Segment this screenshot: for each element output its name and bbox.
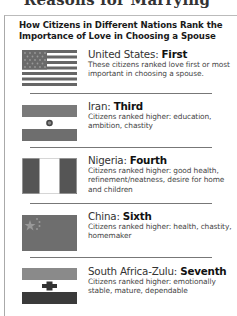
- divider: [30, 93, 212, 94]
- entry-text: United States: First These citizens rank…: [88, 48, 234, 79]
- iran-flag-icon: [22, 105, 77, 141]
- entry-text: China: Sixth Citizens ranked higher: hea…: [88, 210, 234, 241]
- china-flag-icon: [22, 215, 77, 251]
- entry-description: Citizens ranked higher: education, ambit…: [88, 112, 234, 131]
- rank-label: Third: [114, 100, 143, 112]
- country-rank: United States: First: [88, 48, 234, 60]
- entry-text: Iran: Third Citizens ranked higher: educ…: [88, 100, 234, 131]
- country-name: Nigeria:: [88, 154, 130, 166]
- divider: [30, 203, 212, 204]
- entry-description: These citizens ranked love first or most…: [88, 60, 234, 79]
- country-name: China:: [88, 210, 123, 222]
- south-africa-zulu-flag-icon: [22, 268, 77, 304]
- country-rank: Nigeria: Fourth: [88, 154, 234, 166]
- entry-text: Nigeria: Fourth Citizens ranked higher: …: [88, 154, 234, 194]
- rank-label: First: [161, 48, 187, 60]
- nigeria-flag-icon: [22, 158, 77, 194]
- entry-description: Citizens ranked higher: good health, ref…: [88, 166, 234, 194]
- country-name: United States:: [88, 48, 161, 60]
- heading-line-1: How Citizens in Different Nations Rank t…: [19, 20, 231, 31]
- divider: [30, 257, 212, 258]
- entry-description: Citizens ranked higher: emotionally stab…: [88, 277, 234, 296]
- us-flag-icon: [22, 50, 77, 86]
- entry-text: South Africa-Zulu: Seventh Citizens rank…: [88, 265, 234, 296]
- country-rank: China: Sixth: [88, 210, 234, 222]
- country-rank: South Africa-Zulu: Seventh: [88, 265, 234, 277]
- country-name: South Africa-Zulu:: [88, 265, 180, 277]
- country-name: Iran:: [88, 100, 114, 112]
- rank-label: Seventh: [180, 265, 226, 277]
- rank-label: Sixth: [123, 210, 152, 222]
- sidebar-heading: How Citizens in Different Nations Rank t…: [19, 20, 231, 42]
- divider: [30, 147, 212, 148]
- page-title: Reasons for Marrying: [0, 0, 234, 9]
- rank-label: Fourth: [130, 154, 167, 166]
- heading-line-2: Importance of Love in Choosing a Spouse: [19, 31, 231, 42]
- entry-description: Citizens ranked higher: health, chastity…: [88, 222, 234, 241]
- country-rank: Iran: Third: [88, 100, 234, 112]
